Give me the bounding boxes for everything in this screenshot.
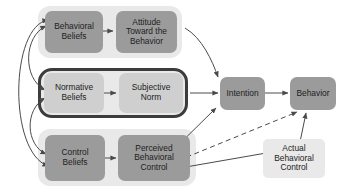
node-behavior[interactable]: Behavior [290, 77, 336, 110]
node-perceived-behavioral-control-label: Perceived Behavioral Control [134, 144, 174, 173]
diagram-canvas: Behavioral Beliefs Attitude Toward the B… [0, 0, 352, 192]
node-subjective-norm-label: Subjective Norm [132, 83, 171, 102]
node-attitude-toward-the-behavior[interactable]: Attitude Toward the Behavior [116, 11, 177, 53]
node-subjective-norm[interactable]: Subjective Norm [119, 73, 183, 113]
node-normative-beliefs-label: Normative Beliefs [55, 83, 93, 102]
edge-actual-control-to-behavior [300, 113, 306, 142]
node-behavioral-beliefs[interactable]: Behavioral Beliefs [45, 11, 103, 53]
node-intention[interactable]: Intention [220, 77, 265, 110]
node-control-beliefs[interactable]: Control Beliefs [45, 135, 105, 181]
node-normative-beliefs[interactable]: Normative Beliefs [44, 73, 104, 113]
edge-attitude-to-intention [185, 28, 218, 77]
node-perceived-behavioral-control[interactable]: Perceived Behavioral Control [118, 135, 190, 181]
node-control-beliefs-label: Control Beliefs [62, 148, 89, 167]
node-intention-label: Intention [226, 89, 258, 99]
node-behavioral-beliefs-label: Behavioral Beliefs [54, 22, 94, 41]
node-actual-behavioral-control[interactable]: Actual Behavioral Control [263, 139, 325, 178]
node-behavior-label: Behavior [296, 89, 329, 99]
node-attitude-toward-the-behavior-label: Attitude Toward the Behavior [126, 18, 167, 47]
node-actual-behavioral-control-label: Actual Behavioral Control [274, 144, 314, 173]
